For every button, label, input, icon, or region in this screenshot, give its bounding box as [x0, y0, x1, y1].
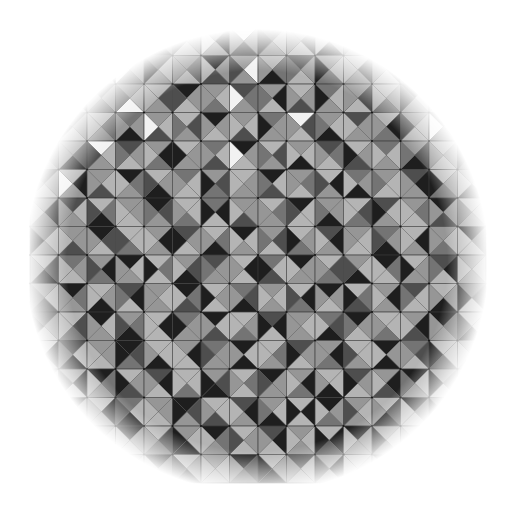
grid-vertex-dot [57, 168, 59, 170]
grid-vertex-dot [143, 311, 145, 313]
grid-vertex-dot [171, 225, 173, 227]
grid-vertex-dot [399, 225, 401, 227]
grid-vertex-dot [57, 396, 59, 398]
figure-canvas [0, 0, 514, 530]
grid-vertex-dot [171, 168, 173, 170]
grid-vertex-dot [371, 396, 373, 398]
grid-vertex-dot [399, 83, 401, 85]
grid-vertex-dot [171, 311, 173, 313]
grid-vertex-dot [285, 453, 287, 455]
grid-vertex-dot [456, 83, 458, 85]
grid-vertex-dot [200, 311, 202, 313]
grid-vertex-dot [428, 453, 430, 455]
grid-vertex-dot [314, 453, 316, 455]
grid-vertex-dot [399, 54, 401, 56]
grid-vertex-dot [228, 396, 230, 398]
grid-vertex-dot [371, 368, 373, 370]
grid-vertex-dot [428, 168, 430, 170]
grid-vertex-dot [29, 311, 31, 313]
grid-vertex-dot [171, 54, 173, 56]
grid-vertex-dot [143, 453, 145, 455]
grid-vertex-dot [86, 396, 88, 398]
grid-vertex-dot [29, 111, 31, 113]
grid-vertex-dot [57, 453, 59, 455]
grid-vertex-dot [314, 368, 316, 370]
grid-vertex-dot [228, 453, 230, 455]
grid-vertex-dot [342, 254, 344, 256]
grid-vertex-dot [428, 254, 430, 256]
grid-vertex-dot [399, 26, 401, 28]
grid-vertex-dot [285, 254, 287, 256]
grid-vertex-dot [314, 225, 316, 227]
grid-vertex-dot [371, 311, 373, 313]
grid-vertex-dot [456, 168, 458, 170]
grid-vertex-dot [257, 425, 259, 427]
grid-vertex-dot [200, 26, 202, 28]
grid-vertex-dot [86, 168, 88, 170]
grid-vertex-dot [57, 197, 59, 199]
grid-vertex-dot [143, 396, 145, 398]
grid-vertex-dot [143, 282, 145, 284]
grid-vertex-dot [57, 26, 59, 28]
grid-vertex-dot [86, 83, 88, 85]
grid-vertex-dot [114, 26, 116, 28]
grid-vertex-dot [171, 453, 173, 455]
grid-vertex-dot [228, 140, 230, 142]
grid-vertex-dot [257, 140, 259, 142]
grid-vertex-dot [342, 339, 344, 341]
grid-vertex-dot [114, 83, 116, 85]
grid-vertex-dot [200, 339, 202, 341]
grid-vertex-dot [57, 311, 59, 313]
grid-vertex-dot [257, 225, 259, 227]
grid-vertex-dot [57, 140, 59, 142]
grid-vertex-dot [228, 26, 230, 28]
grid-vertex-dot [428, 282, 430, 284]
grid-vertex-dot [456, 197, 458, 199]
grid-vertex-dot [257, 197, 259, 199]
grid-vertex-dot [257, 453, 259, 455]
grid-vertex-dot [257, 311, 259, 313]
grid-vertex-dot [57, 83, 59, 85]
grid-vertex-dot [342, 140, 344, 142]
grid-vertex-dot [171, 368, 173, 370]
grid-vertex-dot [114, 311, 116, 313]
grid-vertex-dot [143, 140, 145, 142]
grid-vertex-dot [285, 197, 287, 199]
grid-vertex-dot [342, 282, 344, 284]
grid-vertex-dot [456, 396, 458, 398]
grid-vertex-dot [114, 368, 116, 370]
grid-vertex-dot [114, 140, 116, 142]
grid-vertex-dot [114, 282, 116, 284]
grid-vertex-dot [228, 225, 230, 227]
grid-vertex-dot [143, 225, 145, 227]
grid-vertex-dot [114, 339, 116, 341]
grid-vertex-dot [285, 282, 287, 284]
grid-vertex-dot [314, 311, 316, 313]
grid-vertex-dot [200, 83, 202, 85]
mosaic-tiles [29, 26, 486, 483]
grid-vertex-dot [456, 339, 458, 341]
grid-vertex-dot [200, 453, 202, 455]
grid-vertex-dot [228, 339, 230, 341]
grid-vertex-dot [371, 254, 373, 256]
grid-vertex-dot [314, 140, 316, 142]
grid-vertex-dot [314, 54, 316, 56]
grid-vertex-dot [399, 425, 401, 427]
grid-vertex-dot [342, 453, 344, 455]
grid-vertex-dot [86, 254, 88, 256]
grid-vertex-dot [257, 54, 259, 56]
grid-vertex-dot [314, 168, 316, 170]
grid-vertex-dot [200, 168, 202, 170]
grid-vertex-dot [228, 368, 230, 370]
grid-vertex-dot [114, 425, 116, 427]
grid-vertex-dot [29, 425, 31, 427]
grid-vertex-dot [86, 111, 88, 113]
grid-vertex-dot [285, 111, 287, 113]
grid-vertex-dot [114, 396, 116, 398]
grid-vertex-dot [456, 26, 458, 28]
grid-vertex-dot [200, 140, 202, 142]
grid-vertex-dot [200, 111, 202, 113]
grid-vertex-dot [314, 254, 316, 256]
grid-vertex-dot [29, 396, 31, 398]
grid-vertex-dot [342, 425, 344, 427]
